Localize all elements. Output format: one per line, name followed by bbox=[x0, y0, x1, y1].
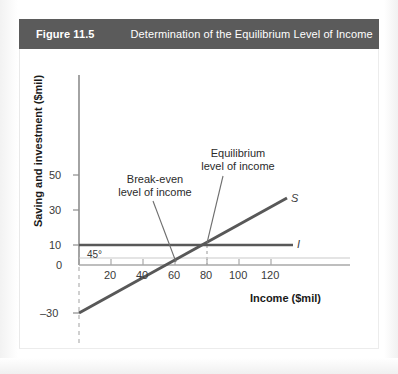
x-tick-label-120: 120 bbox=[261, 270, 279, 281]
break-even-annotation-line2: level of income bbox=[85, 186, 225, 199]
equilibrium-annotation: Equilibrium level of income bbox=[168, 147, 308, 173]
figure-header-bar: Figure 11.5 Determination of the Equilib… bbox=[19, 19, 379, 49]
break-even-annotation: Break-even level of income bbox=[85, 173, 225, 199]
y-tick-label-minus30: –30 bbox=[40, 308, 58, 319]
saving-curve-label: S bbox=[291, 192, 298, 204]
y-tick-label-50: 50 bbox=[49, 170, 61, 181]
chart-plot-area: Saving and investment ($mil) 50 30 10 0 … bbox=[19, 49, 379, 349]
y-tick-label-30: 30 bbox=[49, 205, 61, 216]
break-even-leader-line bbox=[153, 201, 176, 262]
y-axis-title: Saving and investment ($mil) bbox=[32, 71, 44, 231]
chart-svg-canvas bbox=[20, 49, 379, 349]
break-even-annotation-line1: Break-even bbox=[85, 173, 225, 186]
x-tick-label-20: 20 bbox=[104, 270, 116, 281]
equilibrium-annotation-line2: level of income bbox=[168, 160, 308, 173]
investment-curve-label: I bbox=[297, 238, 300, 250]
figure-number: Figure 11.5 bbox=[36, 28, 95, 40]
y-tick-label-10: 10 bbox=[49, 240, 61, 251]
x-tick-label-60: 60 bbox=[168, 270, 180, 281]
forty-five-degree-label: 45° bbox=[87, 249, 102, 260]
x-axis-title: Income ($mil) bbox=[250, 293, 321, 304]
equilibrium-annotation-line1: Equilibrium bbox=[168, 147, 308, 160]
x-tick-label-40: 40 bbox=[136, 270, 148, 281]
x-tick-label-100: 100 bbox=[229, 270, 247, 281]
figure-caption: Determination of the Equilibrium Level o… bbox=[131, 28, 373, 40]
x-tick-label-80: 80 bbox=[200, 270, 212, 281]
page-edge-shading-bottom bbox=[0, 358, 398, 374]
page-edge-shading-right bbox=[384, 0, 398, 374]
figure-container: Figure 11.5 Determination of the Equilib… bbox=[0, 0, 398, 374]
page-edge-shading-left bbox=[0, 0, 18, 374]
y-tick-label-0: 0 bbox=[56, 260, 62, 271]
